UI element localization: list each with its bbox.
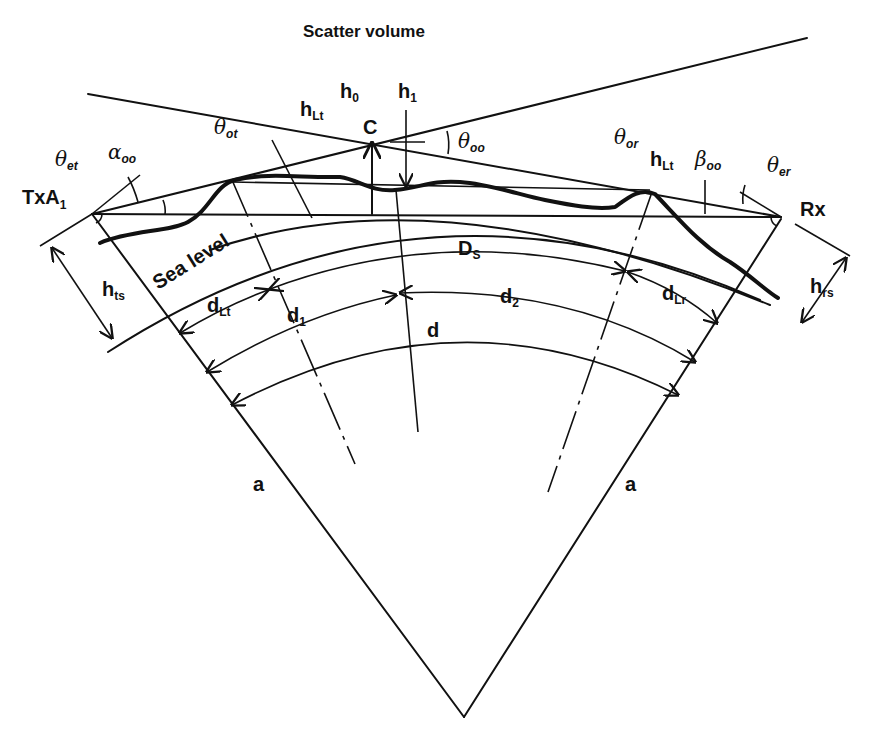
rx-right-angle-marker [771,217,777,226]
sea-level-label: Sea level [148,229,232,293]
d-label: d [427,319,439,341]
d2-label: d2 [500,285,519,310]
d1-label: d1 [287,304,306,329]
radius-label-left: a [253,473,265,495]
hLt-left-label: hLt [300,98,324,123]
theta-oo-arc [447,131,449,154]
radial-scatter-point [396,190,418,432]
rx-label: Rx [800,198,826,220]
d2-arc [400,292,695,362]
Ds-label: DS [458,237,480,262]
hrs-extension [795,224,850,256]
dLr-label: dLr [662,282,687,307]
theta-er-label: θer [767,153,792,179]
beta-oo-label: βoo [694,147,721,173]
h1-label: h1 [398,80,417,105]
ds-arc [270,252,625,289]
earth-radii [92,214,781,717]
theta-et-label: θet [55,147,79,173]
alpha-oo-label: αoo [108,140,136,166]
dLt-label: dLt [207,294,231,319]
hts-label: hts [102,278,125,303]
diagram-title: Scatter volume [303,22,425,41]
d-arc [232,342,678,405]
tx-label: TxA1 [22,186,67,212]
scatter-point-label: C [363,116,377,138]
h0-label: h0 [340,80,359,105]
hLt-right-label: hLt [650,148,674,173]
theta-oo-label: θoo [458,129,485,155]
hLt-left-line [272,140,312,218]
hts-extension [40,214,92,246]
rx-horizon-ray [88,94,781,217]
radius-label-right: a [625,473,637,495]
tx-horizon-ray [92,38,807,214]
troposcatter-geometry-diagram: Scatter volume a a [0,0,874,742]
ds-chord-tick [163,200,165,215]
d1-arc [207,295,396,372]
theta-or-label: θor [614,125,639,151]
hrs-label: hrs [810,275,834,300]
